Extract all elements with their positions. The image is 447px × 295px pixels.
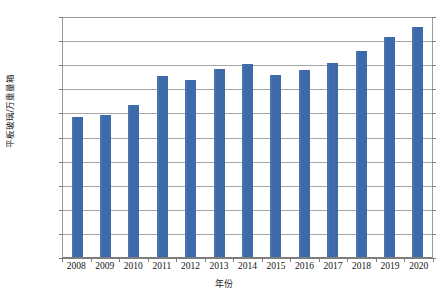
bar	[356, 51, 367, 257]
bar	[299, 70, 310, 257]
y-axis-title: 平板玻璃/万重量箱	[3, 56, 15, 166]
x-tick-label: 2014	[233, 261, 262, 271]
y-tick-mark-right	[432, 89, 436, 90]
x-tick-mark	[376, 258, 377, 262]
x-tick-label: 2013	[205, 261, 234, 271]
bar	[157, 76, 168, 257]
bar	[185, 80, 196, 257]
x-tick-mark	[262, 258, 263, 262]
x-tick-mark	[62, 258, 63, 262]
y-tick-mark-right	[432, 186, 436, 187]
bar	[72, 117, 83, 257]
bar-slot	[319, 17, 347, 257]
x-tick-label: 2018	[347, 261, 376, 271]
x-axis-title: 年份	[0, 277, 447, 290]
bar-slot	[120, 17, 148, 257]
bar-series	[63, 17, 432, 257]
x-tick-mark	[148, 258, 149, 262]
x-tick-mark	[233, 258, 234, 262]
x-tick-mark	[433, 258, 434, 262]
x-tick-mark	[347, 258, 348, 262]
x-tick-label: 2010	[119, 261, 148, 271]
x-tick-label: 2009	[91, 261, 120, 271]
bar-slot	[404, 17, 432, 257]
x-tick-label: 2017	[319, 261, 348, 271]
y-tick-mark-right	[432, 234, 436, 235]
y-tick-mark-right	[432, 17, 436, 18]
bar-chart: 平板玻璃/万重量箱 010000200003000040000500006000…	[0, 0, 447, 295]
x-tick-label: 2019	[376, 261, 405, 271]
x-tick-label: 2012	[176, 261, 205, 271]
bar	[214, 69, 225, 257]
bar-slot	[148, 17, 176, 257]
bar-slot	[205, 17, 233, 257]
bar	[100, 115, 111, 257]
bar	[128, 105, 139, 257]
x-axis-ticks: 2008200920102011201220132014201520162017…	[62, 261, 433, 271]
bar-slot	[63, 17, 91, 257]
x-tick-label: 2008	[62, 261, 91, 271]
x-tick-mark	[404, 258, 405, 262]
bar	[412, 27, 423, 257]
bar	[327, 63, 338, 257]
y-tick-mark-right	[432, 210, 436, 211]
y-tick-mark-right	[432, 138, 436, 139]
x-tick-mark	[290, 258, 291, 262]
bar-slot	[91, 17, 119, 257]
bar-slot	[262, 17, 290, 257]
plot-area	[62, 17, 433, 258]
y-tick-mark-right	[432, 41, 436, 42]
y-tick-mark-right	[432, 65, 436, 66]
x-tick-label: 2011	[148, 261, 177, 271]
bar	[242, 64, 253, 257]
bar-slot	[177, 17, 205, 257]
x-tick-label: 2015	[262, 261, 291, 271]
bar-slot	[375, 17, 403, 257]
x-tick-mark	[176, 258, 177, 262]
y-tick-mark-right	[432, 113, 436, 114]
bar-slot	[233, 17, 261, 257]
x-tick-mark	[319, 258, 320, 262]
x-tick-label: 2016	[290, 261, 319, 271]
x-tick-mark	[119, 258, 120, 262]
bar-slot	[290, 17, 318, 257]
x-tick-label: 2020	[404, 261, 433, 271]
y-tick-mark-right	[432, 162, 436, 163]
bar	[384, 37, 395, 258]
bar-slot	[347, 17, 375, 257]
x-tick-mark	[91, 258, 92, 262]
x-tick-mark	[205, 258, 206, 262]
bar	[270, 75, 281, 257]
